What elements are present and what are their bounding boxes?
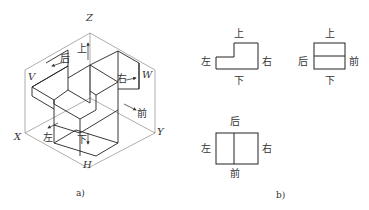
- front-view-bottom-label: 下: [234, 75, 244, 86]
- axis-y-label: Y: [157, 126, 165, 137]
- front-arrow-icon: [124, 104, 136, 110]
- front-view-right-label: 右: [262, 55, 272, 67]
- left-label: 左: [43, 131, 53, 143]
- right-label: 右: [117, 72, 127, 84]
- top-view: 后 左 右 前: [201, 116, 272, 179]
- front-label: 前: [137, 107, 147, 119]
- three-view-diagram: Z X Y V W H 上 后 右 前 左 下 a) 上 左 右 下 上 后 前…: [0, 0, 369, 210]
- side-view: 上 后 前 下: [298, 28, 359, 86]
- figure-a-caption: a): [76, 188, 85, 198]
- front-view-left-label: 左: [201, 55, 211, 67]
- plane-h-label: H: [82, 159, 92, 170]
- front-view-top-label: 上: [234, 28, 244, 39]
- top-view-bottom-label: 前: [230, 167, 240, 179]
- up-label: 上: [77, 43, 87, 54]
- top-view-left-label: 左: [201, 142, 211, 154]
- figure-b-caption: b): [276, 190, 285, 200]
- top-view-right-label: 右: [262, 142, 272, 154]
- down-label: 下: [77, 134, 87, 145]
- plane-v-label: V: [28, 71, 37, 82]
- front-view: 上 左 右 下: [201, 28, 272, 86]
- plane-w-label: W: [142, 69, 153, 80]
- axis-z-label: Z: [85, 12, 94, 23]
- side-view-top-label: 上: [325, 28, 335, 39]
- axis-x-label: X: [13, 131, 22, 142]
- top-view-top-label: 后: [230, 116, 240, 127]
- back-label: 后: [60, 53, 70, 64]
- side-view-right-label: 前: [349, 55, 359, 67]
- side-view-left-label: 后: [298, 56, 308, 67]
- side-view-bottom-label: 下: [325, 75, 335, 86]
- right-arrow-icon: [126, 78, 136, 80]
